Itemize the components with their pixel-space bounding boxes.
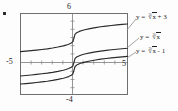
curve-label-2: y = 3√x [140, 33, 162, 42]
curve-label-1-tail: + 3 [158, 13, 167, 21]
curve-cbrt-plus-3 [21, 24, 128, 52]
radicand-1: x [152, 12, 157, 21]
leader-line-1 [127, 19, 136, 30]
axis-label-left: -5 [6, 58, 13, 66]
cube-root-icon: 3√x [151, 33, 162, 42]
curve-label-3-tail: - 1 [158, 47, 166, 55]
curve-label-1-lhs: y = [136, 13, 145, 21]
cube-root-icon: 3√x [147, 13, 158, 22]
curve-label-2-lhs: y = [140, 33, 149, 41]
axis-label-top: 6 [67, 3, 71, 11]
axis-label-bottom: -4 [66, 96, 73, 104]
radicand-2: x [156, 32, 161, 41]
curve-label-3: y = 3√x- 1 [136, 47, 165, 56]
figure-container: 6 -4 -5 5 y = 3√x+ 3 y = 3√x y = 3√x- 1 [0, 0, 178, 111]
leader-line-3 [127, 52, 136, 58]
radicand-3: x [152, 46, 157, 55]
curve-label-1: y = 3√x+ 3 [136, 13, 167, 22]
curve-label-3-lhs: y = [136, 47, 145, 55]
axis-label-right: 5 [122, 60, 126, 68]
cube-root-icon: 3√x [147, 47, 158, 56]
